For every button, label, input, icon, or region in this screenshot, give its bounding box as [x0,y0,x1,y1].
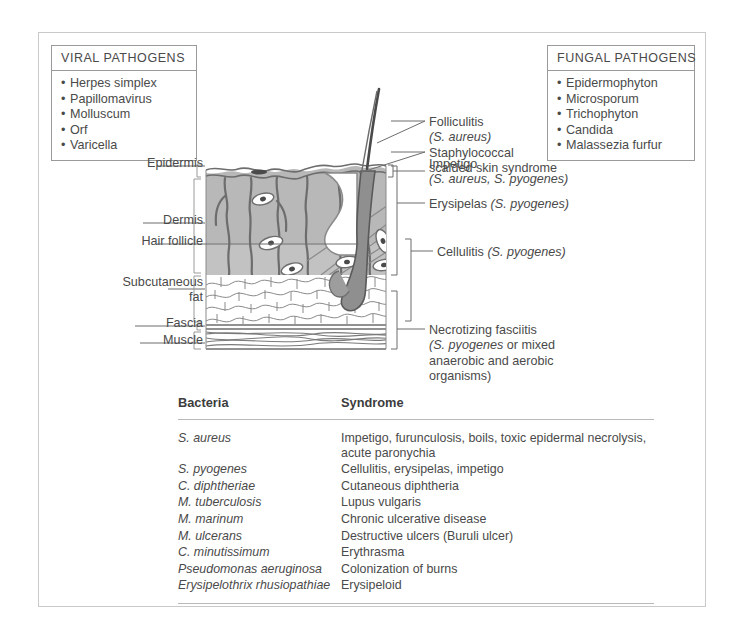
label-subcutaneous-fat-line1: Subcutaneous [63,275,203,290]
label-folliculitis: Folliculitis (S. aureus) [429,115,491,146]
cell-syndrome: Destructive ulcers (Buruli ulcer) [341,528,654,545]
cell-syndrome: Impetigo, furunculosis, boils, toxic epi… [341,420,654,462]
fungal-pathogens-box: FUNGAL PATHOGENS •Epidermophyton •Micros… [547,45,695,161]
bullet-icon: • [557,107,566,123]
cell-syndrome: Cutaneous diphtheria [341,478,654,495]
bullet-icon: • [61,138,70,154]
poster-frame: VIRAL PATHOGENS •Herpes simplex •Papillo… [38,32,706,607]
table-row: S. aureus Impetigo, furunculosis, boils,… [178,420,654,462]
table-row: M. tuberculosis Lupus vulgaris [178,494,654,511]
list-item-label: Candida [566,123,613,137]
cell-syndrome: Lupus vulgaris [341,494,654,511]
cell-bacteria: C. minutissimum [178,544,341,561]
table-bottom-rule [178,603,654,605]
fascia-layer [206,324,386,330]
bullet-icon: • [557,92,566,108]
sebaceous-gland [329,271,349,297]
label-erysipelas-organism: (S. pyogenes) [491,197,569,211]
label-muscle: Muscle [83,333,203,348]
list-item: •Candida [557,123,686,139]
bullet-icon: • [557,76,566,92]
bullet-icon: • [61,123,70,139]
follicle-body [341,171,375,311]
label-cellulitis-organism: (S. pyogenes) [487,245,565,259]
label-cellulitis-name: Cellulitis [437,245,487,259]
list-item: •Epidermophyton [557,76,686,92]
table-row: S. pyogenes Cellulitis, erysipelas, impe… [178,461,654,478]
label-folliculitis-organism: (S. aureus) [429,130,491,144]
bullet-icon: • [61,92,70,108]
dermal-structures [216,173,396,277]
bracket-necrotizing-fasciitis [391,291,397,349]
list-item-label: Microsporum [566,92,639,106]
table-row: C. minutissimum Erythrasma [178,544,654,561]
hair-shaft [367,89,379,169]
label-fascia: Fascia [83,316,203,331]
hair-follicle-structure [329,89,379,311]
column-header-syndrome: Syndrome [341,395,654,420]
subcutaneous-fat-fill [206,275,386,329]
list-item-label: Herpes simplex [70,76,157,90]
collagen-bundles [307,203,391,275]
bullet-icon: • [61,76,70,92]
list-item: •Microsporum [557,92,686,108]
fat-lobules [206,277,393,324]
label-folliculitis-name: Folliculitis [429,115,491,130]
surface-lesion [251,170,267,175]
bullet-icon: • [61,107,70,123]
list-item-label: Varicella [70,138,117,152]
list-item-label: Epidermophyton [566,76,658,90]
viral-pathogens-list: •Herpes simplex •Papillomavirus •Mollusc… [52,71,196,160]
label-impetigo-name: Impetigo [429,157,568,172]
dermal-cells [251,191,396,277]
label-epidermis: Epidermis [83,156,203,171]
label-cellulitis: Cellulitis (S. pyogenes) [437,245,566,260]
bullet-icon: • [557,123,566,139]
table-spacer [178,594,654,604]
label-subcutaneous-fat: Subcutaneous fat [63,275,203,306]
label-erysipelas-name: Erysipelas [429,197,491,211]
cell-syndrome: Colonization of burns [341,561,654,578]
label-impetigo-organism: (S. aureus, S. pyogenes) [429,172,568,186]
bracket-erysipelas [391,166,397,275]
cell-bacteria: C. diphtheriae [178,478,341,495]
list-item: •Molluscum [61,107,188,123]
table-row: M. marinum Chronic ulcerative disease [178,511,654,528]
table-row: C. diphtheriae Cutaneous diphtheria [178,478,654,495]
bracket-cellulitis [405,239,411,321]
cell-bacteria: M. tuberculosis [178,494,341,511]
blood-vessels [216,174,370,275]
table-row: Pseudomonas aeruginosa Colonization of b… [178,561,654,578]
list-item-label: Papillomavirus [70,92,152,106]
column-header-bacteria: Bacteria [178,395,341,420]
list-item-label: Trichophyton [566,107,638,121]
cell-syndrome: Cellulitis, erysipelas, impetigo [341,461,654,478]
label-erysipelas: Erysipelas (S. pyogenes) [429,197,569,212]
label-necrotizing-fasciitis: Necrotizing fasciitis (S. pyogenes or mi… [429,323,589,385]
epidermis-surface [206,164,386,179]
list-item: •Papillomavirus [61,92,188,108]
label-necrotizing-fasciitis-organism: (S. pyogenes [429,338,503,352]
leader-ssss [359,152,425,173]
label-dermis: Dermis [83,213,203,228]
list-item: •Herpes simplex [61,76,188,92]
viral-pathogens-heading: VIRAL PATHOGENS [52,46,196,71]
dermis-fill [206,166,386,275]
table-row: Erysipelothrix rhusiopathiae Erysipeloid [178,577,654,594]
table-row: M. ulcerans Destructive ulcers (Buruli u… [178,528,654,545]
list-item-label: Orf [70,123,88,137]
fungal-pathogens-heading: FUNGAL PATHOGENS [548,46,694,71]
right-brackets-and-leaders [359,121,433,349]
bracket-impetigo [388,165,393,177]
cell-bacteria: S. pyogenes [178,461,341,478]
cell-bacteria: Erysipelothrix rhusiopathiae [178,577,341,594]
list-item-label: Molluscum [70,107,130,121]
list-item: •Varicella [61,138,188,154]
cell-syndrome: Chronic ulcerative disease [341,511,654,528]
blister-cavity [325,173,357,255]
viral-pathogens-box: VIRAL PATHOGENS •Herpes simplex •Papillo… [51,45,197,161]
label-subcutaneous-fat-line2: fat [63,290,203,305]
list-item: •Orf [61,123,188,139]
list-item: •Trichophyton [557,107,686,123]
skin-layers-group [206,164,393,349]
